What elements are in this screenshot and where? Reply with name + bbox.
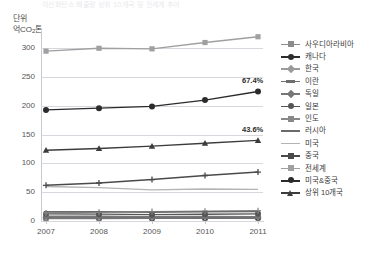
chart-title-cropped: 이산화탄소 배출량 상위 10개국 및 전세계 추이 (42, 0, 282, 9)
data-point (255, 169, 261, 175)
legend-label: 전세계 (305, 164, 326, 173)
legend-item-한국[interactable]: 한국 (281, 63, 368, 75)
x-axis-tick (99, 221, 100, 224)
legend-label: 미국 (305, 139, 319, 148)
legend-item-러시아[interactable]: 러시아 (281, 125, 368, 137)
data-point (202, 173, 208, 179)
legend-marker-icon (281, 113, 300, 125)
data-point (202, 40, 207, 45)
unit-caption: 단위 억CO2톤 (13, 13, 42, 36)
legend-label: 한국 (305, 64, 319, 73)
legend-label: 인도 (305, 114, 319, 123)
legend-marker (288, 41, 294, 47)
legend-marker (287, 65, 295, 73)
legend-label: 캐나다 (305, 52, 326, 61)
plot-area: 67.4%43.6% 20072008200920102011 (41, 31, 263, 221)
data-point (149, 177, 155, 183)
legend-marker (286, 80, 295, 82)
legend-line (281, 130, 300, 132)
y-axis-tick-label: 0 (9, 217, 35, 225)
legend-marker-icon (281, 100, 300, 112)
data-point (255, 34, 260, 39)
series-러시아 (46, 212, 258, 213)
data-point (149, 46, 154, 51)
x-axis-tick-label: 2009 (132, 227, 172, 236)
data-label: 67.4% (242, 76, 263, 85)
legend-marker (288, 54, 294, 60)
unit-label-line2: 억CO2톤 (13, 24, 42, 36)
legend-item-중국[interactable]: 중국 (281, 150, 368, 162)
legend-item-일본[interactable]: 일본 (281, 100, 368, 112)
legend-marker-icon (281, 125, 300, 137)
legend-item-전세계[interactable]: 전세계 (281, 162, 368, 174)
series-미국 (46, 186, 258, 189)
chart-container: 이산화탄소 배출량 상위 10개국 및 전세계 추이 단위 억CO2톤 67.4… (0, 0, 368, 253)
data-point (96, 105, 102, 111)
legend-item-미국[interactable]: 미국 (281, 137, 368, 149)
legend-marker (287, 90, 295, 98)
legend-label: 사우디아라비아 (305, 40, 354, 49)
series-전세계 (43, 34, 260, 54)
legend-marker (288, 153, 294, 159)
legend-item-독일[interactable]: 독일 (281, 88, 368, 100)
legend-item-상위 10개국[interactable]: 상위 10개국 (281, 187, 368, 199)
unit-prefix: 억CO (13, 25, 32, 34)
y-axis-tick-label: 100 (9, 159, 35, 167)
legend-item-인도[interactable]: 인도 (281, 112, 368, 124)
legend-marker (287, 190, 293, 196)
legend-item-이란[interactable]: 이란 (281, 75, 368, 87)
data-point (255, 88, 261, 94)
legend-line (281, 143, 300, 145)
chart-legend: 사우디아라비아캐나다한국이란독일일본인도러시아미국중국전세계미국&중국상위 10… (281, 38, 368, 199)
legend-marker-icon (281, 150, 300, 162)
data-point (96, 180, 102, 186)
legend-marker (288, 177, 294, 183)
legend-item-사우디아라비아[interactable]: 사우디아라비아 (281, 38, 368, 50)
x-axis-tick-label: 2007 (26, 227, 66, 236)
legend-marker-icon (281, 137, 300, 149)
legend-marker-icon (281, 38, 300, 50)
data-point (202, 97, 208, 103)
series-중국 (43, 169, 261, 188)
data-point (43, 49, 48, 54)
legend-label: 일본 (305, 102, 319, 111)
y-axis-tick-label: 150 (9, 131, 35, 139)
legend-marker (288, 116, 294, 122)
legend-label: 러시아 (305, 126, 326, 135)
legend-marker-icon (281, 162, 300, 174)
y-axis-tick-label: 300 (9, 44, 35, 52)
unit-subscript: 2 (32, 28, 35, 34)
legend-marker-icon (281, 51, 300, 63)
x-axis-tick (46, 221, 47, 224)
y-axis-tick-label: 250 (9, 73, 35, 81)
y-axis-tick-label: 200 (9, 102, 35, 110)
legend-marker-icon (281, 75, 300, 87)
x-axis-tick-label: 2010 (185, 227, 225, 236)
data-point (43, 182, 49, 188)
legend-item-미국&중국[interactable]: 미국&중국 (281, 174, 368, 186)
data-point (149, 103, 155, 109)
x-axis-tick-label: 2008 (79, 227, 119, 236)
legend-label: 독일 (305, 89, 319, 98)
data-point (96, 46, 101, 51)
legend-label: 이란 (305, 77, 319, 86)
x-axis-tick (205, 221, 206, 224)
unit-label-line1: 단위 (13, 13, 42, 24)
series-상위 10개국 (43, 137, 261, 153)
series-layer (41, 31, 263, 221)
legend-label: 중국 (305, 151, 319, 160)
legend-label: 상위 10개국 (305, 188, 343, 197)
legend-marker-icon (281, 63, 300, 75)
series-line (46, 212, 258, 213)
series-미국&중국 (43, 88, 261, 112)
legend-marker-icon (281, 187, 300, 199)
legend-item-캐나다[interactable]: 캐나다 (281, 50, 368, 62)
series-line (46, 186, 258, 189)
x-axis-tick (258, 221, 259, 224)
legend-marker (288, 103, 294, 109)
legend-marker (288, 165, 294, 171)
legend-marker-icon (281, 88, 300, 100)
x-axis-tick (152, 221, 153, 224)
data-point (43, 107, 49, 113)
data-label: 43.6% (242, 125, 263, 134)
